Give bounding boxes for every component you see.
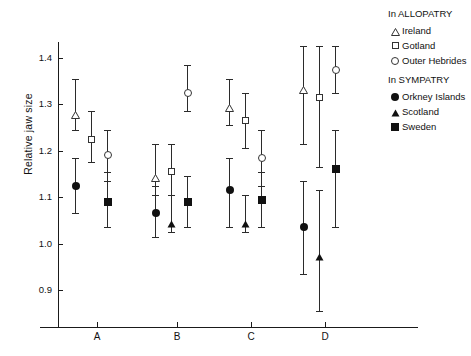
- marker-circle-filled-icon: [72, 182, 80, 190]
- error-bar-cap: [104, 227, 111, 228]
- error-bar-cap: [316, 46, 323, 47]
- error-bar-cap: [72, 130, 79, 131]
- x-axis-line: [40, 327, 418, 328]
- marker-square-open-icon: [88, 136, 95, 143]
- y-tick: [58, 151, 63, 152]
- legend-label: Sweden: [402, 121, 436, 132]
- marker-circle-filled-icon: [300, 223, 308, 231]
- legend-symbol: [388, 103, 402, 121]
- legend-label: Scotland: [402, 106, 439, 117]
- error-bar-cap: [184, 176, 191, 177]
- error-bar-cap: [184, 111, 191, 112]
- error-bar-cap: [88, 162, 95, 163]
- x-tick: [97, 322, 98, 327]
- error-bar: [319, 46, 320, 167]
- error-bar-cap: [88, 111, 95, 112]
- marker-square-filled-icon: [104, 198, 112, 206]
- error-bar-cap: [332, 93, 339, 94]
- y-axis-line: [58, 42, 59, 328]
- legend-symbol: [388, 123, 402, 131]
- y-tick: [58, 58, 63, 59]
- legend-heading: In ALLOPATRY: [388, 8, 471, 19]
- marker-circle-filled-icon: [152, 209, 160, 217]
- x-tick-label: B: [165, 331, 189, 342]
- marker-triangle-open-icon: [391, 22, 400, 40]
- legend-heading: In SYMPATRY: [388, 74, 471, 85]
- marker-triangle-open-icon: [299, 80, 308, 98]
- error-bar-cap: [300, 46, 307, 47]
- error-bar: [335, 130, 336, 227]
- error-bar-cap: [258, 130, 265, 131]
- x-tick-label: D: [313, 331, 337, 342]
- y-tick: [58, 244, 63, 245]
- error-bar-cap: [300, 274, 307, 275]
- error-bar-cap: [168, 144, 175, 145]
- y-tick: [58, 104, 63, 105]
- legend-label: Gotland: [402, 40, 435, 51]
- legend-item[interactable]: Sweden: [388, 119, 471, 134]
- legend-item[interactable]: Ireland: [388, 23, 471, 38]
- marker-circle-filled-icon: [391, 93, 399, 101]
- error-bar-cap: [242, 93, 249, 94]
- x-tick: [177, 322, 178, 327]
- marker-circle-open-icon: [258, 154, 266, 162]
- marker-square-filled-icon: [258, 196, 266, 204]
- marker-square-open-icon: [242, 117, 249, 124]
- legend-symbol: [388, 42, 402, 49]
- y-tick-label: 1.3: [26, 98, 52, 109]
- marker-triangle-open-icon: [225, 98, 234, 116]
- error-bar-cap: [242, 232, 249, 233]
- error-bar-cap: [226, 158, 233, 159]
- error-bar-cap: [316, 311, 323, 312]
- marker-square-filled-icon: [391, 123, 399, 131]
- marker-square-filled-icon: [332, 165, 340, 173]
- legend-symbol: [388, 93, 402, 101]
- marker-triangle-filled-icon: [391, 103, 400, 121]
- marker-square-open-icon: [316, 94, 323, 101]
- legend-label: Ireland: [402, 25, 431, 36]
- error-bar-cap: [168, 195, 175, 196]
- error-bar-cap: [332, 46, 339, 47]
- error-bar-cap: [72, 158, 79, 159]
- error-bar-cap: [226, 227, 233, 228]
- error-bar-cap: [300, 181, 307, 182]
- legend-label: Outer Hebrides: [402, 55, 466, 66]
- legend-symbol: [388, 57, 402, 65]
- error-bar-cap: [258, 227, 265, 228]
- error-bar-cap: [184, 227, 191, 228]
- y-tick: [58, 197, 63, 198]
- marker-triangle-open-icon: [151, 168, 160, 186]
- legend-item[interactable]: Gotland: [388, 38, 471, 53]
- error-bar-cap: [168, 232, 175, 233]
- marker-triangle-filled-icon: [315, 247, 324, 265]
- error-bar-cap: [316, 167, 323, 168]
- y-tick-label: 1.2: [26, 145, 52, 156]
- x-tick: [251, 322, 252, 327]
- marker-square-open-icon: [392, 42, 399, 49]
- error-bar-cap: [152, 237, 159, 238]
- error-bar-cap: [226, 125, 233, 126]
- marker-circle-open-icon: [184, 89, 192, 97]
- error-bar-cap: [242, 148, 249, 149]
- y-tick-label: 1.4: [26, 52, 52, 63]
- x-tick: [325, 322, 326, 327]
- marker-square-open-icon: [168, 168, 175, 175]
- error-bar-cap: [184, 65, 191, 66]
- y-tick: [58, 290, 63, 291]
- legend-symbol: [388, 22, 402, 40]
- error-bar-cap: [72, 79, 79, 80]
- marker-circle-filled-icon: [226, 186, 234, 194]
- error-bar-cap: [316, 190, 323, 191]
- marker-circle-open-icon: [104, 151, 112, 159]
- y-tick-label: 1.1: [26, 191, 52, 202]
- y-tick-label: 0.9: [26, 284, 52, 295]
- error-bar-cap: [104, 172, 111, 173]
- legend-item[interactable]: Outer Hebrides: [388, 53, 471, 68]
- error-bar-cap: [104, 130, 111, 131]
- error-bar-cap: [152, 144, 159, 145]
- legend-item[interactable]: Scotland: [388, 104, 471, 119]
- marker-square-filled-icon: [184, 198, 192, 206]
- x-tick-label: A: [85, 331, 109, 342]
- error-bar-cap: [300, 144, 307, 145]
- error-bar-cap: [72, 213, 79, 214]
